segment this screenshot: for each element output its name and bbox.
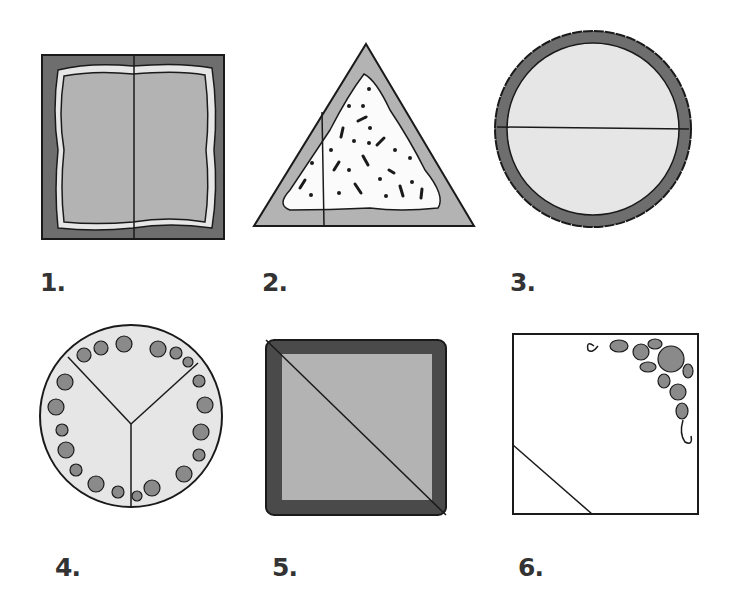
diagram-4-circle-thirds-roses [40,325,222,507]
label-diagram-5: 5. [272,553,297,582]
label-diagram-6: 6. [518,553,543,582]
diagram-2-triangle-sprinkles [254,44,474,226]
diagram-5-square-diagonal [266,340,446,515]
label-diagram-2: 2. [262,268,287,297]
label-diagram-4: 4. [55,553,80,582]
diagram-1-square-halves [42,55,224,239]
diagram-3-circle-halves [495,31,691,227]
cake-cutting-diagrams [0,0,732,595]
diagram-6-square-corner-cut [513,334,698,514]
label-diagram-1: 1. [40,268,65,297]
label-diagram-3: 3. [510,268,535,297]
